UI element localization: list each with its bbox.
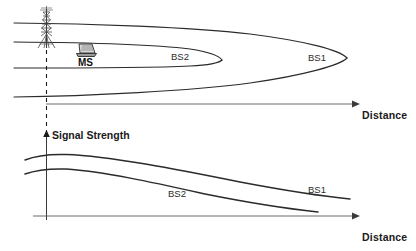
- curve-label-bs2: BS2: [168, 189, 186, 199]
- curve-bs1: [25, 154, 350, 199]
- laptop-screen: [79, 44, 95, 53]
- signal-strength-distance-figure: BS2 BS1 MS Distance Signal Strength BS2 …: [0, 0, 416, 251]
- top-panel-x-axis: [46, 101, 360, 108]
- contour-bs2-upper: [14, 42, 222, 60]
- bottom-panel-y-axis: [43, 130, 50, 220]
- top-x-axis-arrowhead: [352, 101, 360, 108]
- top-x-axis-label: Distance: [362, 110, 407, 121]
- bottom-y-axis-arrowhead: [43, 130, 50, 137]
- laptop-icon: [77, 44, 97, 57]
- bottom-x-axis-arrowhead: [352, 213, 360, 220]
- bottom-x-axis-label: Distance: [362, 232, 407, 243]
- bottom-y-axis-label: Signal Strength: [52, 130, 130, 141]
- mobile-station-label: MS: [78, 58, 93, 68]
- contour-bs2-lower: [14, 60, 222, 68]
- figure-canvas: [0, 0, 416, 251]
- contour-label-bs1: BS1: [308, 53, 326, 63]
- bottom-panel-x-axis: [33, 213, 360, 220]
- contour-bs1-lower: [14, 58, 347, 97]
- curve-label-bs1: BS1: [308, 185, 326, 195]
- contour-label-bs2: BS2: [171, 52, 189, 62]
